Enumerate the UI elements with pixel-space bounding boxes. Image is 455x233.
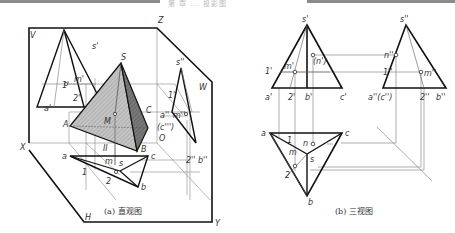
label-a-h: a (62, 152, 67, 161)
figure-a-pictorial: V Z W X H Y O S A B C M II s' 1' m' a' 2… (19, 16, 221, 228)
label-m-double-prime-b: m'' (424, 69, 436, 78)
label-b-h: b (141, 183, 146, 192)
label-2-double-prime: 2'' (186, 156, 196, 165)
label-b-double-prime-b: b'' (436, 93, 445, 102)
label-m-h: m (105, 157, 113, 166)
label-n-double-prime-b: n'' (384, 51, 393, 60)
axis-label-z: Z (157, 16, 164, 25)
figure-b-three-views: s' 1' m' (n') a' 2' b' c' s'' n'' 1'' m'… (261, 15, 446, 207)
label-2-h: 2 (106, 177, 111, 186)
label-1-top: 1 (287, 136, 292, 145)
projection-construction-lines (279, 55, 432, 181)
label-n-prime-b: (n') (313, 57, 327, 66)
label-s-double-prime-b: s'' (400, 15, 409, 24)
label-C: C (146, 106, 152, 115)
label-s-prime-b: s' (302, 15, 308, 24)
label-b-double-prime: b'' (198, 156, 207, 165)
label-c-double-prime: (c''') (157, 123, 174, 132)
label-a-top: a (261, 129, 266, 138)
label-c-top: c (345, 129, 350, 138)
label-m-top: m (289, 148, 297, 157)
label-1-double-prime: 1'' (168, 91, 178, 100)
axis-label-x: X (19, 143, 26, 152)
label-c-prime-b: c' (340, 93, 347, 102)
label-a-prime: a' (44, 104, 51, 113)
w-projection (172, 68, 196, 143)
label-1-h: 1 (82, 168, 87, 177)
axis-label-y: Y (215, 219, 221, 228)
label-n-top: n (303, 139, 308, 148)
label-B: B (141, 145, 147, 154)
label-1-prime: 1' (62, 81, 69, 90)
label-b-prime-b: b' (305, 93, 312, 102)
label-s-top: s (310, 155, 314, 164)
label-m-prime-b: m' (284, 62, 294, 71)
label-2-prime-b: 2' (288, 93, 295, 102)
label-2-double-prime-b: 2'' (420, 93, 430, 102)
label-m-double-prime: m'' (173, 111, 185, 120)
label-1-double-prime-b: 1'' (383, 68, 393, 77)
projection-diagram: V Z W X H Y O S A B C M II s' 1' m' a' 2… (0, 0, 455, 233)
label-1-prime-b: 1' (265, 67, 272, 76)
label-s-double-prime: s'' (176, 58, 185, 67)
label-S: S (121, 53, 126, 62)
plane-label-h: H (85, 213, 91, 222)
label-II: II (103, 144, 108, 153)
label-c-h: c (151, 152, 156, 161)
label-2-top: 2 (285, 171, 290, 180)
figure-b-caption: (b) 三视图 (335, 205, 373, 216)
label-m-prime: m' (74, 75, 84, 84)
label-s-prime: s' (92, 42, 98, 51)
label-a-double-prime: a'' (160, 111, 169, 120)
label-a-double-prime-b: a''(c'') (368, 93, 392, 102)
label-A: A (62, 120, 68, 129)
label-s-h: s (119, 159, 123, 168)
figure-a-caption: (a) 直观图 (104, 205, 142, 216)
plane-label-v: V (30, 31, 36, 40)
axis-label-o: O (159, 134, 165, 143)
label-2-prime: 2' (73, 94, 80, 103)
front-view (272, 25, 342, 88)
label-b-top: b (308, 198, 313, 207)
plane-label-w: W (199, 83, 208, 92)
label-a-prime-b: a' (265, 93, 272, 102)
label-M: M (104, 117, 111, 126)
